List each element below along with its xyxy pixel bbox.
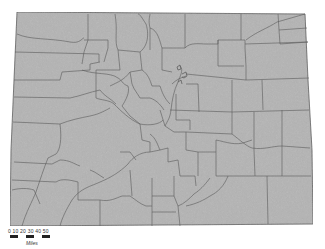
scale-segments [10,235,58,238]
scale-segment [42,235,50,238]
colorado-county-map [0,0,325,249]
scale-segment [10,235,18,238]
scale-bar: 0 10 20 30 40 50 Miles [8,228,68,248]
scale-tick-labels: 0 10 20 30 40 50 [8,228,49,234]
scale-unit-label: Miles [26,240,38,246]
scale-segment [26,235,34,238]
